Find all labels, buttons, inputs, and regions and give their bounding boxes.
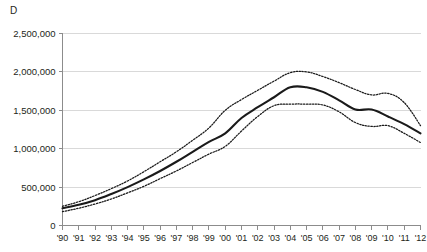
y-axis-label: 1,000,000 xyxy=(13,143,55,154)
y-axis-label: 2,000,000 xyxy=(13,66,55,77)
y-axis-label: 2,500,000 xyxy=(13,28,55,39)
x-axis-label: '11 xyxy=(399,233,410,243)
x-axis-label: '95 xyxy=(138,233,150,243)
x-axis-label: '09 xyxy=(366,233,378,243)
y-axis-labels-group: 0500,0001,000,0001,500,0002,000,0002,500… xyxy=(13,28,55,231)
series-line-central-estimate xyxy=(63,86,421,208)
x-axis-label: '06 xyxy=(317,233,329,243)
x-axis-label: '01 xyxy=(236,233,248,243)
x-axis-labels-group: '90'91'92'93'94'95'96'97'98'99'00'01'02'… xyxy=(57,233,427,243)
y-axis-label: 0 xyxy=(50,220,55,231)
line-chart-plot: 0500,0001,000,0001,500,0002,000,0002,500… xyxy=(0,0,427,252)
x-axis-label: '00 xyxy=(219,233,231,243)
chart-panel: D 0500,0001,000,0001,500,0002,000,0002,5… xyxy=(0,0,427,252)
series-line-lower-bound xyxy=(63,104,421,212)
x-axis-label: '90 xyxy=(57,233,69,243)
x-axis-label: '91 xyxy=(73,233,85,243)
y-axis-label: 500,000 xyxy=(21,182,55,193)
x-axis-label: '93 xyxy=(105,233,117,243)
data-series-group xyxy=(63,71,421,211)
x-axis-label: '96 xyxy=(154,233,166,243)
x-axis-label: '98 xyxy=(187,233,199,243)
x-axis-label: '10 xyxy=(382,233,394,243)
x-axis-label: '05 xyxy=(301,233,313,243)
y-tick-marks-group xyxy=(59,34,63,226)
y-axis-label: 1,500,000 xyxy=(13,105,55,116)
x-axis-label: '03 xyxy=(268,233,280,243)
x-axis-label: '97 xyxy=(171,233,183,243)
x-axis-label: '94 xyxy=(122,233,134,243)
x-axis-label: '07 xyxy=(333,233,345,243)
x-axis-label: '99 xyxy=(203,233,215,243)
x-axis-label: '04 xyxy=(284,233,296,243)
x-axis-label: '12 xyxy=(415,233,427,243)
x-tick-marks-group xyxy=(63,226,421,230)
x-axis-label: '02 xyxy=(252,233,264,243)
x-axis-label: '08 xyxy=(350,233,362,243)
series-line-upper-bound xyxy=(63,71,421,206)
x-axis-label: '92 xyxy=(89,233,101,243)
